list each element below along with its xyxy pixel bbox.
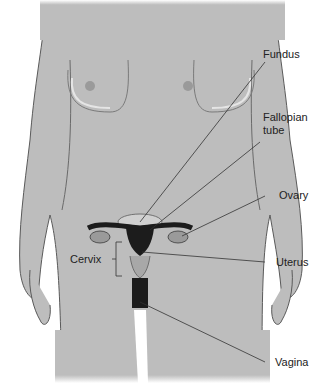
label-ovary: Ovary xyxy=(279,189,308,202)
label-vagina: Vagina xyxy=(275,356,308,369)
label-fallopian-tube-line2: tube xyxy=(263,124,284,137)
label-fallopian-tube-line1: Fallopian xyxy=(263,111,308,124)
label-cervix: Cervix xyxy=(70,253,101,266)
right-ovary xyxy=(168,231,188,243)
label-uterus: Uterus xyxy=(276,256,308,269)
vagina xyxy=(132,278,148,308)
torso xyxy=(20,18,303,383)
left-ovary xyxy=(90,231,110,243)
label-fundus: Fundus xyxy=(263,48,300,61)
